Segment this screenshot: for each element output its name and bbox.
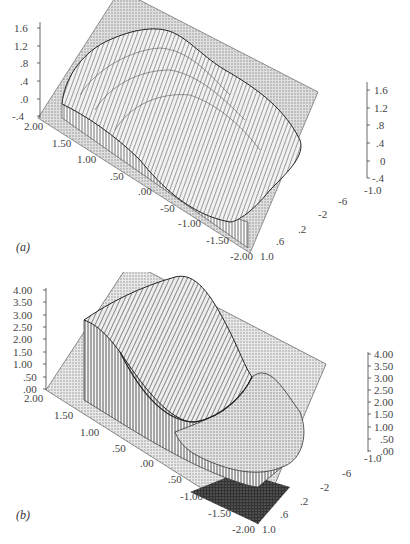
y-tick: 1.0 [260,251,274,262]
y-tick: -1.0 [364,453,381,464]
z-tick-right: -.4 [372,173,384,184]
x-tick: -2.00 [232,524,255,535]
x-tick: .50 [168,474,182,485]
z-tick-left: 1.6 [14,23,28,34]
z-tick-right: .4 [376,138,384,149]
x-tick: 1.50 [54,410,73,421]
z-tick-right: 4.00 [374,349,393,360]
z-tick-right: 3.00 [374,373,393,384]
z-tick-left: 1.00 [13,359,32,370]
z-tick-left: .4 [20,76,28,87]
y-tick: .2 [300,496,308,507]
y-tick: -6 [338,196,347,207]
y-tick: .2 [298,224,306,235]
y-tick: -6 [342,468,351,479]
x-tick: -1.00 [178,218,201,229]
z-tick-right: .8 [376,120,384,131]
y-tick: -1.0 [364,185,381,196]
z-tick-right: 1.6 [374,85,388,96]
panel-label-b: (b) [16,508,30,523]
x-tick: -50 [160,203,175,214]
z-tick-left: 2.00 [13,334,32,345]
x-tick: 1.00 [77,154,96,165]
z-tick-left: .0 [20,94,28,105]
z-tick-right: 3.50 [374,361,393,372]
x-tick: .50 [112,443,126,454]
z-tick-right: 1.50 [374,409,393,420]
x-tick: -2.00 [230,251,253,262]
y-tick: -2 [320,482,329,493]
z-tick-right: 2.00 [374,397,393,408]
surface-a-graphic [0,0,410,272]
x-tick: .00 [138,186,152,197]
x-tick: 1.50 [52,138,71,149]
z-tick-left: 4.00 [13,285,32,296]
y-tick: 1.0 [262,524,276,535]
surface-b-graphic [0,272,410,544]
y-tick: .6 [280,509,288,520]
z-tick-left: 3.00 [13,310,32,321]
z-tick-right: .00 [380,446,394,457]
z-tick-right: 0 [380,156,386,167]
x-tick: -1.50 [208,508,231,519]
z-tick-left: 3.50 [13,297,32,308]
z-tick-right: .50 [380,434,394,445]
surface-plot-b: 4.00 3.50 3.00 2.50 2.00 1.50 1.00 .50 .… [0,272,410,544]
z-tick-left: -.4 [12,111,24,122]
y-tick: .6 [276,236,284,247]
z-tick-left: .8 [20,58,28,69]
panel-label-a: (a) [16,240,30,255]
z-tick-right: 1.00 [374,422,393,433]
x-tick: 2.00 [24,121,43,132]
z-tick-left: 2.50 [13,322,32,333]
z-tick-left: 1.2 [14,41,28,52]
surface-plot-a: 1.6 1.2 .8 .4 .0 -.4 1.6 1.2 .8 .4 0 -.4… [0,0,410,272]
y-tick: -2 [318,209,327,220]
x-tick: -1.50 [206,235,229,246]
z-tick-right: 1.2 [374,103,388,114]
z-tick-right: 2.50 [374,385,393,396]
x-tick: -1.00 [180,491,203,502]
x-tick: 1.00 [80,427,99,438]
z-tick-left: .50 [23,372,37,383]
z-tick-left: 1.50 [13,347,32,358]
x-tick: .50 [110,171,124,182]
x-tick: 2.00 [24,393,43,404]
x-tick: .00 [140,458,154,469]
